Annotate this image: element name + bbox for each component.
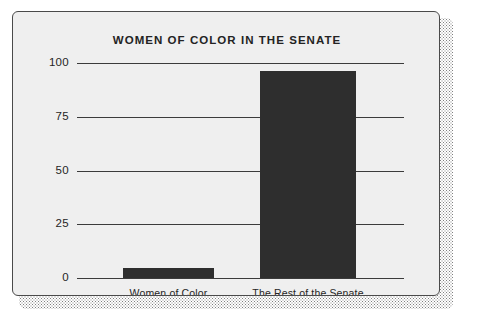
chart-card: WOMEN OF COLOR IN THE SENATE 100 75 50 2…: [12, 11, 440, 296]
xtick-label-rest-of-senate: The Rest of the Senate: [241, 287, 375, 296]
xtick-label-women-of-color: Women of Color: [116, 287, 221, 296]
ytick-label-75: 75: [23, 110, 69, 122]
gridline-0: [77, 278, 404, 279]
ytick-label-100: 100: [23, 56, 69, 68]
gridline-100: [77, 63, 404, 64]
ytick-label-25: 25: [23, 217, 69, 229]
bar-women-of-color[interactable]: [123, 268, 214, 278]
bar-rest-of-senate[interactable]: [260, 71, 356, 278]
ytick-label-50: 50: [23, 164, 69, 176]
plot-area: 100 75 50 25 0 Women of Color The Rest o…: [13, 12, 440, 296]
ytick-label-0: 0: [23, 271, 69, 283]
